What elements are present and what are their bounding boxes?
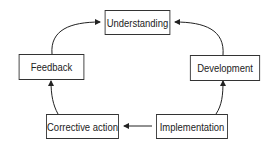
node-label: Development — [197, 62, 253, 74]
node-development: Development — [190, 55, 260, 81]
arrow-development-to-understanding — [175, 22, 223, 55]
node-label: Understanding — [107, 17, 168, 29]
node-feedback: Feedback — [19, 54, 85, 80]
arrow-implementation-to-development — [216, 81, 223, 114]
node-label: Feedback — [31, 61, 73, 73]
node-label: Implementation — [160, 121, 225, 133]
arrow-feedback-to-understanding — [52, 22, 100, 54]
arrow-corrective-to-feedback — [51, 81, 58, 114]
cycle-diagram: Understanding Development Implementation… — [0, 0, 272, 147]
node-corrective-action: Corrective action — [46, 114, 119, 139]
node-understanding: Understanding — [105, 10, 171, 35]
node-implementation: Implementation — [156, 114, 228, 139]
node-label: Corrective action — [47, 121, 118, 133]
